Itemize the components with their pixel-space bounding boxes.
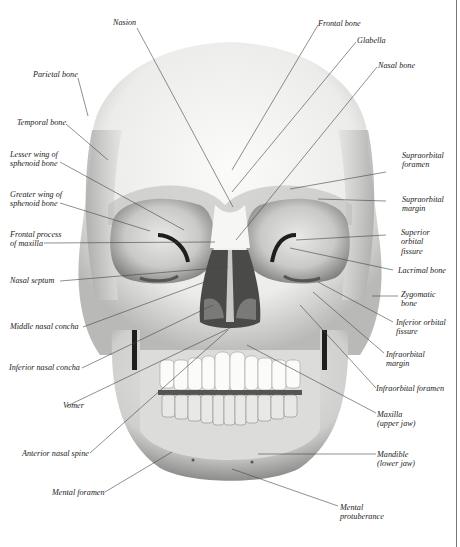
label-frontal-process-maxilla: Frontal processof maxilla — [10, 230, 61, 249]
label-superior-orbital-fissure: Superiororbitalfissure — [401, 228, 430, 256]
label-inferior-nasal-concha: Inferior nasal concha — [9, 363, 80, 372]
label-frontal-bone: Frontal bone — [318, 19, 361, 28]
label-supraorbital-foramen: Supraorbitalforamen — [402, 151, 444, 170]
label-supraorbital-margin: Supraorbitalmargin — [402, 195, 444, 214]
label-mental-foramen: Mental foramen — [52, 488, 105, 497]
figure-border — [456, 0, 457, 547]
label-greater-wing-sphenoid: Greater wing ofsphenoid bone — [10, 190, 62, 209]
right-orbit — [246, 199, 350, 284]
label-infraorbital-foramen: Infraorbital foramen — [376, 384, 444, 393]
label-maxilla: Maxilla(upper jaw) — [377, 410, 415, 429]
label-nasion: Nasion — [113, 18, 136, 27]
label-mental-protuberance: Mentalprotuberance — [340, 503, 384, 522]
label-lacrimal-bone: Lacrimal bone — [398, 266, 446, 275]
label-anterior-nasal-spine: Anterior nasal spine — [22, 449, 89, 458]
label-mandible: Mandible(lower jaw) — [377, 450, 415, 469]
label-zygomatic-bone: Zygomaticbone — [401, 290, 436, 309]
label-parietal-bone: Parietal bone — [33, 70, 78, 79]
label-middle-nasal-concha: Middle nasal concha — [10, 322, 79, 331]
label-inferior-orbital-fissure: Inferior orbitalfissure — [396, 318, 446, 337]
label-vomer: Vomer — [63, 401, 84, 410]
left-orbit — [110, 199, 214, 284]
label-temporal-bone: Temporal bone — [17, 118, 66, 127]
label-nasal-bone: Nasal bone — [378, 61, 415, 70]
label-infraorbital-margin: Infraorbitalmargin — [386, 350, 425, 369]
label-glabella: Glabella — [357, 36, 386, 45]
label-lesser-wing-sphenoid: Lesser wing ofsphenoid bone — [10, 150, 58, 169]
label-nasal-septum: Nasal septum — [10, 276, 54, 285]
